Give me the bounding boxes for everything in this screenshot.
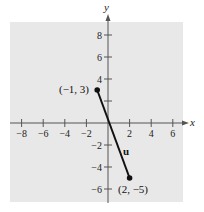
x-tick-label: −6 — [38, 128, 49, 139]
x-tick-label: −4 — [59, 128, 70, 139]
x-axis-label: x — [189, 116, 195, 128]
y-axis-arrow-icon — [106, 14, 111, 21]
y-tick-label: −6 — [91, 184, 102, 195]
y-tick-label: 8 — [97, 30, 102, 41]
x-tick-label: −8 — [16, 128, 27, 139]
x-tick-label: 2 — [127, 128, 132, 139]
start-point-label: (−1, 3) — [59, 83, 89, 96]
x-tick-label: 4 — [149, 128, 154, 139]
x-tick-label: −2 — [81, 128, 92, 139]
end-point-label: (2, −5) — [118, 183, 148, 196]
point-marker — [94, 87, 100, 93]
x-tick-label: 6 — [170, 128, 175, 139]
vector-label: u — [123, 145, 129, 157]
y-tick-label: 4 — [97, 74, 102, 85]
y-tick-label: 6 — [97, 52, 102, 63]
y-axis-label: y — [103, 1, 109, 13]
vector-plot: −8−6−4−2246−6−4−2468 x y (−1, 3) (2, −5)… — [0, 0, 204, 212]
y-tick-label: −4 — [91, 162, 102, 173]
x-axis-arrow-icon — [182, 121, 189, 126]
y-tick-label: −2 — [91, 140, 102, 151]
plot-panel — [10, 22, 183, 202]
point-marker — [127, 175, 133, 181]
